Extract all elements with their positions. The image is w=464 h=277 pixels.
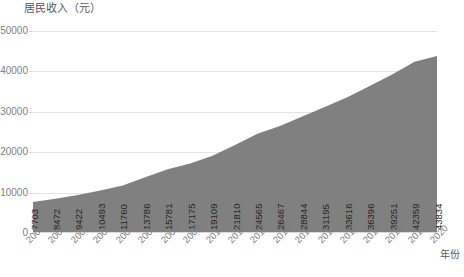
data-value-labels: 7703847294221049311760137861578117175191… [33, 31, 437, 233]
chart-title: 居民收入（元） [24, 1, 101, 15]
y-axis-tick-label: 30000 [0, 107, 28, 117]
chart-container: 居民收入（元） 01000020000300004000050000 77038… [0, 0, 464, 277]
x-axis-title: 年份 [440, 249, 460, 261]
x-axis-labels: 2002200320042005200620072008200920102011… [33, 236, 437, 277]
y-axis-tick-label: 50000 [0, 26, 28, 36]
y-axis-tick-label: 20000 [0, 147, 28, 157]
y-axis-tick-label: 40000 [0, 66, 28, 76]
y-axis-tick-label: 10000 [0, 188, 28, 198]
